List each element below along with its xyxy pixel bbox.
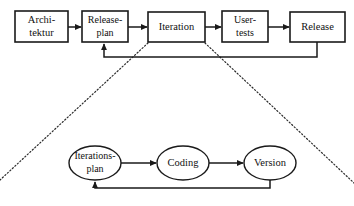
node-usertests[interactable]: User- tests <box>222 11 268 42</box>
node-architektur-label-line1: Archi- <box>28 14 56 25</box>
node-iterationsplan-label-line1: Iterations- <box>74 150 115 161</box>
process-diagram: Archi- tektur Release- plan Iteration Us… <box>0 0 354 206</box>
node-release[interactable]: Release <box>290 12 345 42</box>
node-iterationsplan-label-line2: plan <box>86 163 103 174</box>
node-version[interactable]: Version <box>244 146 296 180</box>
node-architektur-label-line2: tektur <box>29 27 54 38</box>
node-iteration-label: Iteration <box>159 21 195 32</box>
node-releaseplan[interactable]: Release- plan <box>82 11 128 42</box>
node-iterationsplan[interactable]: Iterations- plan <box>69 146 121 180</box>
diagram-canvas: Archi- tektur Release- plan Iteration Us… <box>0 0 354 206</box>
node-usertests-label-line1: User- <box>234 14 256 25</box>
node-coding-label: Coding <box>168 157 200 168</box>
node-iteration[interactable]: Iteration <box>148 12 205 42</box>
node-release-label: Release <box>301 21 334 32</box>
release-process-chain: Archi- tektur Release- plan Iteration Us… <box>15 11 345 57</box>
iteration-detail-chain: Iterations- plan Coding Version <box>69 146 296 188</box>
node-releaseplan-label-line2: plan <box>96 27 113 38</box>
node-usertests-label-line2: tests <box>236 27 254 38</box>
node-architektur[interactable]: Archi- tektur <box>15 11 68 42</box>
feedback-loop-version-to-iterationsplan <box>95 180 270 188</box>
node-coding[interactable]: Coding <box>157 146 209 180</box>
node-version-label: Version <box>254 157 287 168</box>
node-releaseplan-label-line1: Release- <box>88 14 122 25</box>
